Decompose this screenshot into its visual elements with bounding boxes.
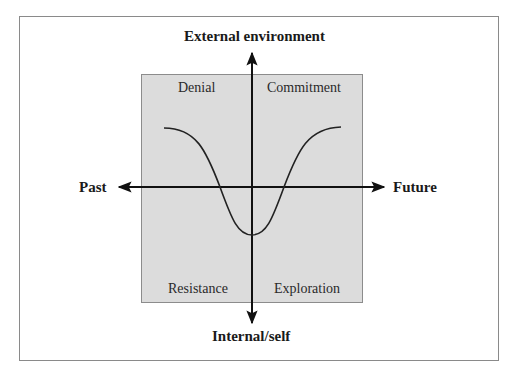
quadrant-label-resistance: Resistance xyxy=(168,282,228,296)
axis-label-right: Future xyxy=(393,180,437,195)
quadrant-label-denial: Denial xyxy=(178,81,215,95)
quadrant-label-exploration: Exploration xyxy=(274,282,340,296)
axis-label-top: External environment xyxy=(184,29,325,44)
axis-label-bottom: Internal/self xyxy=(212,329,290,344)
axes-and-curve xyxy=(0,0,518,377)
quadrant-label-commitment: Commitment xyxy=(267,81,341,95)
axis-label-left: Past xyxy=(79,180,107,195)
